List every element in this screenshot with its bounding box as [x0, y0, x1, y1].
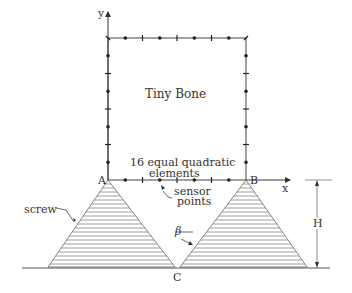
y-axis-label: y [98, 8, 104, 19]
elements-note-line2: elements [149, 168, 200, 179]
point-c-label: C [173, 272, 181, 283]
sensor-label-line2: points [177, 196, 211, 207]
screw-leader [56, 208, 74, 222]
angle-beta-label: β [175, 226, 181, 237]
x-axis-label: x [282, 183, 288, 194]
diagram-svg [0, 0, 352, 293]
beta-leader [181, 239, 189, 243]
screw-label: screw [24, 204, 57, 215]
bone-title: Tiny Bone [145, 88, 206, 100]
sensor-leader [163, 191, 172, 198]
point-a-label: A [98, 175, 106, 186]
diagram-canvas: y x Tiny Bone 16 equal quadratic element… [0, 0, 352, 293]
height-label: H [313, 218, 323, 229]
screw-left [40, 180, 180, 267]
point-b-label: B [250, 175, 258, 186]
